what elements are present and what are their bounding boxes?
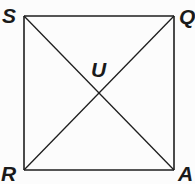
- vertex-label-s: S: [2, 4, 16, 27]
- square-diagram: S Q R A U: [0, 0, 195, 184]
- vertex-label-q: Q: [179, 5, 195, 28]
- intersection-label-u: U: [91, 58, 107, 81]
- diagram-canvas: S Q R A U: [0, 0, 195, 184]
- vertex-label-a: A: [177, 162, 193, 184]
- vertex-label-r: R: [1, 162, 17, 184]
